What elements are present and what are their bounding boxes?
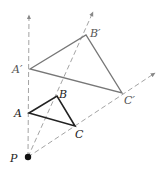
original-triangle (29, 96, 75, 126)
image-triangle (30, 35, 122, 93)
label-B: B (58, 88, 67, 101)
label-C-prime: C′ (124, 94, 135, 107)
label-B-prime: B′ (89, 27, 101, 40)
label-P: P (9, 152, 18, 165)
ray-through-A (28, 15, 29, 157)
label-A: A (13, 107, 22, 120)
label-C: C (75, 128, 84, 141)
diagram-canvas: P A B C A′ B′ C′ (0, 0, 161, 172)
center-point-P (25, 154, 31, 160)
label-A-prime: A′ (11, 63, 23, 76)
dilation-diagram: P A B C A′ B′ C′ (0, 0, 161, 172)
